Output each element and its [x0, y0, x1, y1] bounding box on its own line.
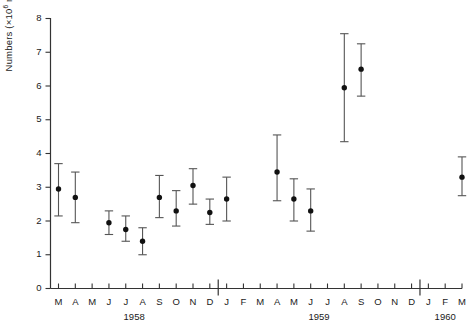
- x-axis-tick-label: M: [84, 296, 100, 307]
- data-point-group: [71, 172, 79, 223]
- data-point-group: [222, 177, 230, 221]
- data-point-group: [340, 34, 348, 142]
- x-axis-year-label: 1958: [117, 311, 151, 322]
- data-point-group: [189, 169, 197, 204]
- x-axis-tick-label: F: [235, 296, 251, 307]
- x-axis-tick-label: F: [437, 296, 453, 307]
- data-point-group: [306, 189, 314, 231]
- chart-figure: Numbers (×106 m−2) 012345678 MAMJJASONDJ…: [0, 0, 472, 332]
- x-axis-tick-label: S: [353, 296, 369, 307]
- data-point-group: [290, 179, 298, 221]
- x-axis-tick-label: J: [420, 296, 436, 307]
- data-point-group: [206, 199, 214, 224]
- y-axis-tick-label: 6: [24, 80, 42, 91]
- x-axis-tick-label: J: [219, 296, 235, 307]
- data-point-group: [172, 191, 180, 226]
- x-axis-year-label: 1959: [302, 311, 336, 322]
- y-axis-tick-label: 0: [24, 282, 42, 293]
- data-point-group: [105, 211, 113, 235]
- y-axis-tick-label: 2: [24, 215, 42, 226]
- data-point-group: [54, 164, 62, 216]
- y-axis-tick-label: 1: [24, 248, 42, 259]
- x-axis-tick-label: J: [320, 296, 336, 307]
- x-axis-tick-label: N: [387, 296, 403, 307]
- x-axis-year-label: 1960: [428, 311, 462, 322]
- x-axis-tick-label: M: [51, 296, 67, 307]
- x-axis-tick-label: A: [269, 296, 285, 307]
- x-axis-tick-label: A: [67, 296, 83, 307]
- x-axis-tick-label: A: [135, 296, 151, 307]
- x-axis-tick-label: M: [454, 296, 470, 307]
- data-point-group: [122, 216, 130, 241]
- data-point-group: [357, 44, 365, 96]
- data-point-group: [458, 157, 466, 196]
- x-axis-tick-label: D: [404, 296, 420, 307]
- y-axis-tick-label: 7: [24, 46, 42, 57]
- x-axis-tick-label: M: [286, 296, 302, 307]
- y-axis-tick-label: 4: [24, 147, 42, 158]
- x-axis-tick-label: O: [370, 296, 386, 307]
- x-axis-tick-label: O: [168, 296, 184, 307]
- y-axis-tick-label: 8: [24, 12, 42, 23]
- x-axis-tick-label: J: [303, 296, 319, 307]
- x-axis-tick-label: A: [336, 296, 352, 307]
- y-axis-tick-label: 5: [24, 113, 42, 124]
- x-axis-tick-label: J: [101, 296, 117, 307]
- data-point-group: [273, 135, 281, 201]
- data-point-group: [138, 228, 146, 255]
- x-axis-tick-label: S: [151, 296, 167, 307]
- x-axis-tick-label: J: [118, 296, 134, 307]
- plot-canvas: [0, 0, 472, 332]
- data-point-group: [155, 175, 163, 217]
- y-axis-tick-label: 3: [24, 181, 42, 192]
- x-axis-tick-label: M: [252, 296, 268, 307]
- x-axis-tick-label: D: [202, 296, 218, 307]
- x-axis-tick-label: N: [185, 296, 201, 307]
